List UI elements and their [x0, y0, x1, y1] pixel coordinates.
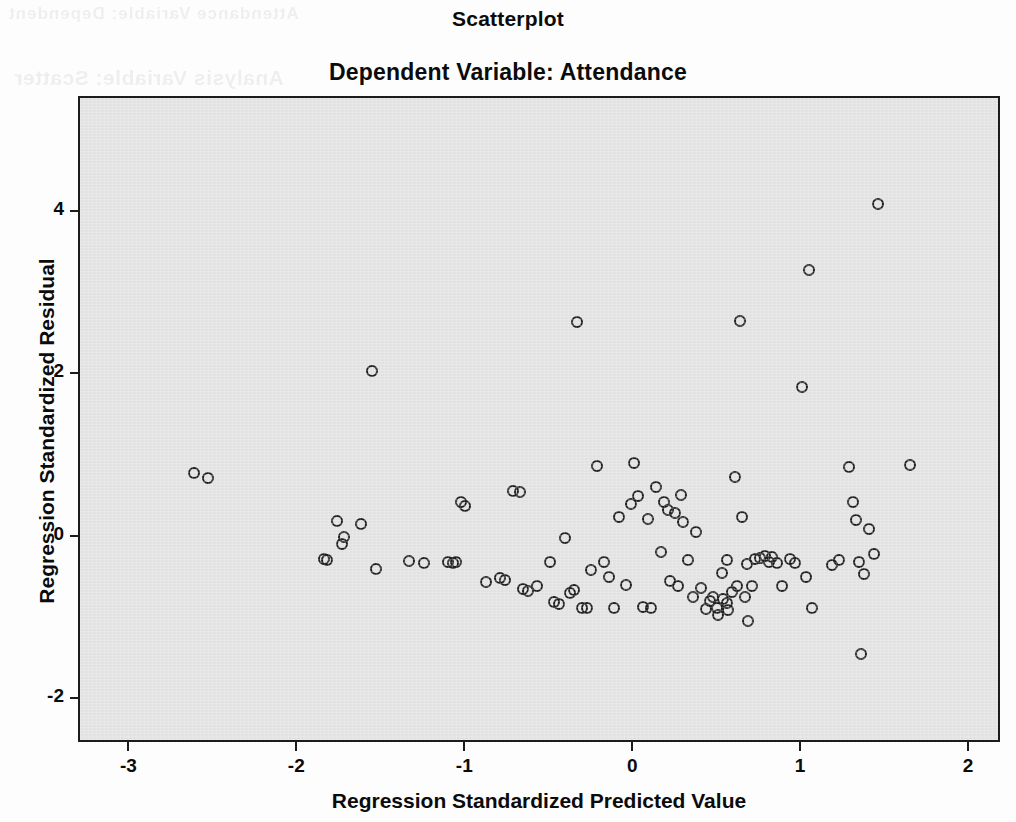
data-point: [695, 582, 707, 594]
data-point: [499, 574, 511, 586]
x-tick-label: -1: [434, 755, 494, 777]
data-point: [553, 598, 565, 610]
data-point: [514, 486, 526, 498]
data-point: [321, 554, 333, 566]
data-point: [833, 554, 845, 566]
data-point: [677, 516, 689, 528]
x-tick-label: -3: [98, 755, 158, 777]
data-point: [338, 531, 350, 543]
data-point: [721, 554, 733, 566]
scatterplot-figure: Scatterplot Dependent Variable: Attendan…: [0, 0, 1016, 822]
data-point: [628, 457, 640, 469]
data-point: [531, 580, 543, 592]
data-point: [202, 472, 214, 484]
data-point: [403, 555, 415, 567]
data-point: [370, 563, 382, 575]
plot-area: [78, 96, 1000, 742]
data-point: [603, 571, 615, 583]
data-point: [655, 546, 667, 558]
data-point: [800, 571, 812, 583]
data-point: [690, 526, 702, 538]
data-point: [581, 602, 593, 614]
data-point: [731, 580, 743, 592]
x-axis-title: Regression Standardized Predicted Value: [78, 789, 1000, 813]
x-tick-label: 0: [602, 755, 662, 777]
data-point: [366, 365, 378, 377]
data-point: [544, 556, 556, 568]
data-point: [568, 584, 580, 596]
y-tick-mark: [70, 210, 78, 212]
y-axis-title: Regression Standardized Residual: [35, 151, 59, 711]
data-point: [672, 580, 684, 592]
data-point: [853, 556, 865, 568]
data-point: [850, 514, 862, 526]
chart-subtitle: Dependent Variable: Attendance: [0, 59, 1016, 86]
x-tick-label: 1: [770, 755, 830, 777]
data-point: [188, 467, 200, 479]
data-point: [585, 564, 597, 576]
x-tick-label: -2: [266, 755, 326, 777]
x-tick-mark: [799, 742, 801, 751]
data-point: [650, 481, 662, 493]
data-point: [459, 500, 471, 512]
y-tick-mark: [70, 697, 78, 699]
data-point: [806, 602, 818, 614]
data-point: [742, 615, 754, 627]
data-point: [868, 548, 880, 560]
data-point: [675, 489, 687, 501]
data-point: [746, 580, 758, 592]
data-point: [608, 602, 620, 614]
data-point: [598, 556, 610, 568]
x-tick-mark: [631, 742, 633, 751]
data-point: [847, 496, 859, 508]
data-point: [645, 602, 657, 614]
data-point: [863, 523, 875, 535]
data-point: [904, 459, 916, 471]
data-point: [613, 511, 625, 523]
data-point: [620, 579, 632, 591]
chart-title: Scatterplot: [0, 7, 1016, 31]
data-point: [355, 518, 367, 530]
data-point: [642, 513, 654, 525]
data-point: [662, 504, 674, 516]
data-point: [722, 604, 734, 616]
data-point: [796, 381, 808, 393]
data-point: [480, 576, 492, 588]
x-tick-mark: [463, 742, 465, 751]
x-tick-mark: [967, 742, 969, 751]
data-point: [771, 557, 783, 569]
data-point: [571, 316, 583, 328]
y-tick-mark: [70, 372, 78, 374]
x-tick-mark: [127, 742, 129, 751]
data-point: [734, 315, 746, 327]
y-tick-mark: [70, 535, 78, 537]
x-tick-label: 2: [938, 755, 998, 777]
data-point: [682, 554, 694, 566]
data-point: [739, 591, 751, 603]
data-point: [331, 515, 343, 527]
data-point: [789, 557, 801, 569]
data-point: [776, 580, 788, 592]
data-point: [855, 648, 867, 660]
data-point: [736, 511, 748, 523]
data-point: [450, 556, 462, 568]
data-point: [872, 198, 884, 210]
data-point: [803, 264, 815, 276]
data-point: [632, 490, 644, 502]
data-point: [741, 558, 753, 570]
data-point: [591, 460, 603, 472]
data-point: [843, 461, 855, 473]
data-point: [418, 557, 430, 569]
data-point: [716, 567, 728, 579]
data-point: [729, 471, 741, 483]
data-point: [559, 532, 571, 544]
x-tick-mark: [295, 742, 297, 751]
data-point: [858, 568, 870, 580]
